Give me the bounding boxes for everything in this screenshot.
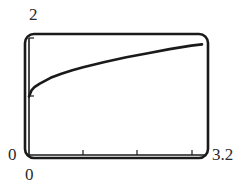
x-min-label: 0 (25, 166, 34, 183)
window-frame (25, 34, 208, 158)
y-max-label: 2 (29, 6, 38, 23)
x-max-label: 3.2 (212, 146, 233, 163)
y-min-label: 0 (8, 146, 17, 163)
graph-screen (0, 0, 238, 190)
function-curve (29, 44, 202, 96)
